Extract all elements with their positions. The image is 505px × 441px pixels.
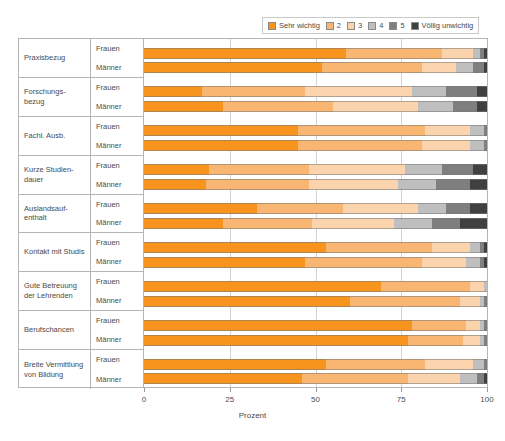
legend-item-label: Sehr wichtig (279, 22, 320, 30)
bar-segment (473, 164, 487, 175)
bar-segment (470, 179, 487, 190)
bar-segment (442, 164, 473, 175)
bar-segment (473, 62, 483, 73)
bar-segment (484, 359, 487, 370)
bar-segment (460, 373, 477, 384)
bar-segment (144, 296, 350, 307)
bar-segment (144, 48, 346, 59)
bar-segment (484, 48, 487, 59)
bar-segment (223, 101, 333, 112)
bar-row (144, 164, 487, 175)
bar-segment (326, 359, 425, 370)
bar-segment (470, 203, 487, 214)
legend-item-label: 2 (337, 22, 341, 30)
bar-row (144, 203, 487, 214)
bar-segment (436, 179, 470, 190)
category-row: Kurze Studien-dauerFrauenMänner (19, 156, 143, 195)
legend-item: Sehr wichtig (268, 22, 320, 30)
bar-segment (408, 335, 463, 346)
subgroup-labels: FrauenMänner (91, 311, 143, 349)
category-row: Kontakt mit StudisFrauenMänner (19, 233, 143, 272)
bar-segment (484, 296, 487, 307)
bar-segment (144, 242, 326, 253)
legend-swatch-icon (268, 22, 276, 30)
bar-segment (350, 296, 460, 307)
bar-segment (460, 296, 481, 307)
bar-row (144, 62, 487, 73)
subgroup-label: Frauen (91, 156, 143, 175)
category-row: PraxisbezugFrauenMänner (19, 39, 143, 78)
bar-segment (412, 86, 446, 97)
legend-item-label: 3 (358, 22, 362, 30)
bar-segment (206, 179, 309, 190)
bar-row (144, 242, 487, 253)
bar-segment (346, 48, 442, 59)
bar-segment (144, 125, 298, 136)
bar-segment (442, 48, 473, 59)
bar-segment (305, 257, 422, 268)
legend-swatch-icon (326, 22, 334, 30)
bar-segment (446, 203, 470, 214)
legend-item: 3 (347, 22, 362, 30)
legend-item-label: 4 (379, 22, 383, 30)
subgroup-label: Frauen (91, 39, 143, 58)
bar-segment (333, 101, 419, 112)
subgroup-label: Männer (91, 330, 143, 349)
bar-segment (144, 218, 223, 229)
category-label-table: PraxisbezugFrauenMännerForschungs-bezugF… (18, 38, 143, 388)
bar-segment (144, 320, 412, 331)
subgroup-label: Männer (91, 252, 143, 271)
chart-legend: Sehr wichtig2345Völlig unwichtig (262, 17, 479, 34)
bar-segment (460, 218, 487, 229)
subgroup-labels: FrauenMänner (91, 272, 143, 310)
category-label: Breite Vermittlungvon Bildung (19, 350, 91, 389)
category-label: Forschungs-bezug (19, 78, 91, 116)
bar-segment (326, 242, 432, 253)
category-label: Praxisbezug (19, 39, 91, 77)
subgroup-labels: FrauenMänner (91, 195, 143, 233)
bar-segment (381, 281, 470, 292)
bar-row (144, 296, 487, 307)
bar-segment (144, 373, 302, 384)
bar-segment (209, 164, 308, 175)
x-tick-label: 0 (142, 395, 146, 404)
bar-segment (144, 179, 206, 190)
bar-segment (473, 48, 480, 59)
subgroup-labels: FrauenMänner (91, 39, 143, 77)
bar-segment (398, 179, 436, 190)
x-tick-mark (230, 388, 231, 392)
x-tick-label: 50 (311, 395, 320, 404)
bar-segment (422, 62, 456, 73)
bar-segment (202, 86, 305, 97)
bar-segment (446, 86, 477, 97)
bar-segment (484, 281, 487, 292)
bar-row (144, 218, 487, 229)
plot-area (143, 38, 488, 388)
subgroup-label: Männer (91, 370, 143, 389)
x-tick-label: 25 (225, 395, 234, 404)
bar-segment (484, 373, 487, 384)
category-label: Gute Betreuungder Lehrenden (19, 272, 91, 310)
bar-segment (484, 242, 487, 253)
bar-row (144, 281, 487, 292)
bar-segment (412, 320, 467, 331)
x-tick-label: 75 (397, 395, 406, 404)
bar-segment (473, 359, 483, 370)
category-row: BerufschancenFrauenMänner (19, 311, 143, 350)
bar-segment (144, 86, 202, 97)
bar-segment (484, 335, 487, 346)
bar-segment (470, 125, 484, 136)
bar-segment (466, 320, 480, 331)
bar-row (144, 359, 487, 370)
bar-row (144, 101, 487, 112)
bar-segment (477, 101, 487, 112)
bar-row (144, 86, 487, 97)
subgroup-label: Frauen (91, 117, 143, 136)
category-label: Fachl. Ausb. (19, 117, 91, 155)
x-tick-label: 100 (480, 395, 493, 404)
bar-segment (408, 373, 459, 384)
legend-swatch-icon (389, 22, 397, 30)
bar-segment (144, 257, 305, 268)
bar-segment (405, 164, 443, 175)
bar-segment (425, 125, 470, 136)
